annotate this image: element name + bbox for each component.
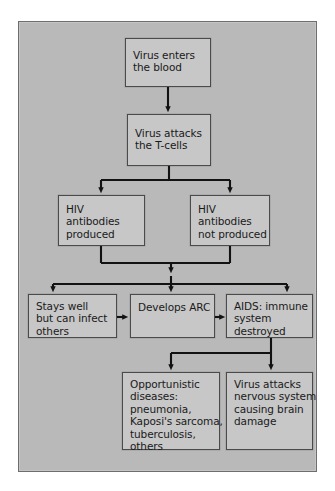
node-line: destroyed bbox=[234, 325, 306, 337]
node-line: pneumonia, bbox=[130, 403, 213, 415]
node-line: system bbox=[234, 312, 306, 324]
node-virus-attacks-nervous-system: Virus attacks nervous system causing bra… bbox=[226, 372, 313, 450]
flowchart-figure: Virus enters the blood Virus attacks the… bbox=[0, 0, 335, 491]
node-hiv-antibodies-not-produced: HIV antibodies not produced bbox=[190, 195, 270, 246]
node-line: others bbox=[36, 325, 110, 337]
node-line: Develops ARC bbox=[138, 301, 208, 313]
node-line: Virus enters bbox=[133, 49, 204, 61]
node-line: antibodies bbox=[66, 215, 138, 227]
node-line: antibodies bbox=[198, 215, 263, 227]
node-line: HIV bbox=[198, 203, 263, 215]
node-line: others bbox=[130, 440, 213, 452]
node-line: the blood bbox=[133, 61, 204, 73]
node-line: Virus attacks bbox=[135, 127, 204, 139]
node-virus-enters-the-blood: Virus enters the blood bbox=[125, 38, 211, 87]
node-virus-attacks-the-t-cells: Virus attacks the T-cells bbox=[127, 114, 211, 166]
node-line: diseases: bbox=[130, 390, 213, 402]
node-line: not produced bbox=[198, 228, 263, 240]
node-line: tuberculosis, bbox=[130, 428, 213, 440]
node-develops-arc: Develops ARC bbox=[130, 294, 215, 338]
node-line: HIV bbox=[66, 203, 138, 215]
node-line: AIDS: immune bbox=[234, 300, 306, 312]
node-line: but can infect bbox=[36, 312, 110, 324]
node-line: produced bbox=[66, 228, 138, 240]
node-hiv-antibodies-produced: HIV antibodies produced bbox=[58, 195, 145, 246]
node-aids-immune-system-destroyed: AIDS: immune system destroyed bbox=[226, 294, 313, 338]
node-opportunistic-diseases: Opportunistic diseases: pneumonia, Kapos… bbox=[122, 372, 220, 450]
node-line: damage bbox=[234, 415, 306, 427]
node-line: nervous system bbox=[234, 390, 306, 402]
node-line: Kaposi's sarcoma, bbox=[130, 415, 213, 427]
node-stays-well-but-can-infect-others: Stays well but can infect others bbox=[28, 294, 117, 338]
node-line: Opportunistic bbox=[130, 378, 213, 390]
node-line: Virus attacks bbox=[234, 378, 306, 390]
node-line: Stays well bbox=[36, 300, 110, 312]
node-line: the T-cells bbox=[135, 139, 204, 151]
node-line: causing brain bbox=[234, 403, 306, 415]
